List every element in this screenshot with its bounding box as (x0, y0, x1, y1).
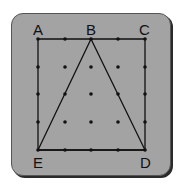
label-e: E (33, 154, 43, 171)
label-c: C (139, 21, 150, 38)
grid-pegs (36, 37, 147, 152)
label-a: A (33, 21, 43, 38)
label-b: B (86, 21, 96, 38)
geoboard-figure: A B C D E (0, 0, 179, 184)
label-d: D (140, 154, 151, 171)
